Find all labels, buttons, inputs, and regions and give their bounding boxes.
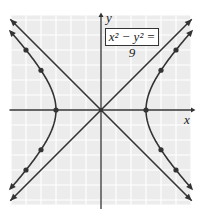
x-axis-label: x <box>184 112 190 128</box>
hyperbola-plot <box>0 0 203 213</box>
equation-label: x² − y² = 9 <box>105 28 159 46</box>
y-axis-label: y <box>106 10 112 26</box>
